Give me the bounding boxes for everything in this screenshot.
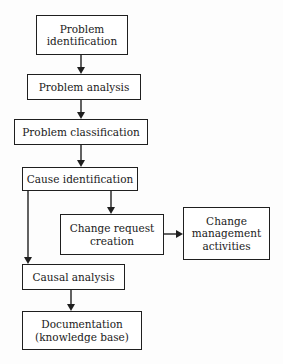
- edge-classification-to-cause: [77, 145, 85, 167]
- edge-cause-to-causal-analysis: [24, 191, 32, 264]
- node-change-management-activities: Change management activities: [183, 207, 270, 260]
- node-problem-classification: Problem classification: [14, 119, 148, 145]
- arrowhead-icon: [77, 112, 85, 119]
- node-documentation: Documentation (knowledge base): [22, 311, 142, 350]
- arrowhead-icon: [24, 257, 32, 264]
- node-change-request-creation: Change request creation: [60, 214, 164, 255]
- flowchart-canvas: Problem identification Problem analysis …: [0, 0, 283, 364]
- arrowhead-icon: [67, 304, 75, 311]
- edge-identification-to-analysis: [77, 55, 85, 74]
- node-causal-analysis: Causal analysis: [22, 264, 125, 290]
- node-problem-analysis: Problem analysis: [27, 74, 141, 100]
- arrowhead-icon: [77, 67, 85, 74]
- edge-analysis-to-classification: [77, 100, 85, 119]
- edge-change-request-to-management: [164, 230, 183, 238]
- node-cause-identification: Cause identification: [22, 167, 138, 191]
- arrowhead-icon: [107, 207, 115, 214]
- arrowhead-icon: [77, 160, 85, 167]
- edge-causal-analysis-to-documentation: [67, 290, 75, 311]
- node-problem-identification: Problem identification: [36, 15, 128, 55]
- arrowhead-icon: [176, 230, 183, 238]
- edge-cause-to-change-request: [107, 191, 115, 214]
